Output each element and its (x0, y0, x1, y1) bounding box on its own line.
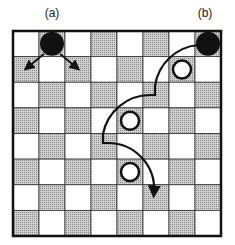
light-square (65, 134, 91, 160)
dark-square (13, 159, 39, 185)
white-piece (173, 60, 191, 78)
light-square (39, 108, 65, 134)
dark-square (195, 185, 221, 211)
dark-square (65, 210, 91, 236)
dark-square (13, 108, 39, 134)
light-square (39, 159, 65, 185)
light-square (65, 82, 91, 108)
dark-square (91, 31, 117, 57)
dark-square (195, 134, 221, 160)
dark-square (143, 185, 169, 211)
dark-square (39, 134, 65, 160)
dark-square (143, 134, 169, 160)
light-square (13, 185, 39, 211)
light-square (169, 31, 195, 57)
light-square (39, 57, 65, 83)
light-square (195, 57, 221, 83)
board-squares (13, 31, 221, 236)
light-square (91, 210, 117, 236)
dark-square (91, 82, 117, 108)
dark-square (143, 31, 169, 57)
light-square (195, 210, 221, 236)
light-square (169, 185, 195, 211)
light-square (143, 210, 169, 236)
light-square (117, 31, 143, 57)
dark-square (91, 185, 117, 211)
dark-square (195, 82, 221, 108)
light-square (39, 210, 65, 236)
light-square (13, 31, 39, 57)
light-square (65, 31, 91, 57)
dark-square (169, 108, 195, 134)
light-square (91, 159, 117, 185)
dark-square (13, 210, 39, 236)
dark-square (39, 185, 65, 211)
black-piece-a (40, 32, 64, 56)
light-square (117, 185, 143, 211)
light-square (91, 57, 117, 83)
light-square (65, 185, 91, 211)
light-square (195, 159, 221, 185)
light-square (169, 134, 195, 160)
light-square (13, 82, 39, 108)
white-piece (121, 163, 139, 181)
dark-square (117, 210, 143, 236)
dark-square (169, 159, 195, 185)
dark-square (117, 57, 143, 83)
light-square (169, 82, 195, 108)
black-piece-b (196, 32, 220, 56)
light-square (143, 108, 169, 134)
dark-square (65, 159, 91, 185)
white-piece (121, 112, 139, 130)
dark-square (39, 82, 65, 108)
light-square (195, 108, 221, 134)
dark-square (65, 108, 91, 134)
light-square (13, 134, 39, 160)
dark-square (169, 210, 195, 236)
checkerboard-diagram (0, 0, 235, 245)
